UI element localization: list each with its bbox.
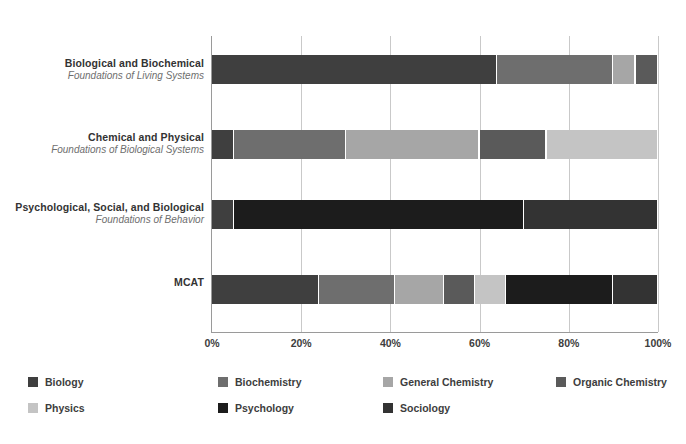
x-tick-label: 20% (291, 337, 312, 349)
legend-swatch-icon (218, 377, 228, 387)
bar-segment[interactable] (497, 55, 612, 84)
stacked-bar[interactable] (212, 200, 658, 229)
legend-row: BiologyBiochemistryGeneral ChemistryOrga… (28, 376, 668, 402)
category-label: Chemical and PhysicalFoundations of Biol… (8, 131, 204, 155)
bar-segment[interactable] (212, 55, 496, 84)
legend-swatch-icon (556, 377, 566, 387)
legend-label: Physics (45, 402, 85, 414)
x-axis-line (211, 332, 658, 333)
legend-label: Sociology (400, 402, 450, 414)
category-label-title: Chemical and Physical (8, 131, 204, 143)
legend-swatch-icon (28, 377, 38, 387)
bar-segment[interactable] (346, 130, 479, 159)
chart-legend: BiologyBiochemistryGeneral ChemistryOrga… (28, 376, 668, 428)
legend-item[interactable]: Biology (28, 376, 84, 388)
legend-label: General Chemistry (400, 376, 493, 388)
legend-swatch-icon (28, 403, 38, 413)
legend-swatch-icon (218, 403, 228, 413)
stacked-bar[interactable] (212, 55, 658, 84)
legend-swatch-icon (383, 377, 393, 387)
legend-item[interactable]: Physics (28, 402, 85, 414)
category-label-title: MCAT (8, 276, 204, 288)
x-tick-label: 40% (380, 337, 401, 349)
bar-segment[interactable] (475, 275, 505, 304)
category-label: Biological and BiochemicalFoundations of… (8, 57, 204, 81)
stacked-bar[interactable] (212, 275, 658, 304)
category-label-title: Biological and Biochemical (8, 57, 204, 69)
bar-segment[interactable] (636, 55, 657, 84)
category-label-subtitle: Foundations of Biological Systems (8, 144, 204, 155)
legend-label: Organic Chemistry (573, 376, 667, 388)
bar-segment[interactable] (506, 275, 612, 304)
legend-row: PhysicsPsychologySociology (28, 402, 668, 428)
bar-segment[interactable] (234, 200, 523, 229)
bar-segment[interactable] (212, 130, 233, 159)
bar-segment[interactable] (212, 275, 318, 304)
bar-segment[interactable] (524, 200, 657, 229)
category-label-subtitle: Foundations of Living Systems (8, 70, 204, 81)
bar-segment[interactable] (234, 130, 344, 159)
legend-item[interactable]: Psychology (218, 402, 294, 414)
category-label: MCAT (8, 276, 204, 288)
stacked-bar[interactable] (212, 130, 658, 159)
bar-segment[interactable] (480, 130, 546, 159)
category-label: Psychological, Social, and BiologicalFou… (8, 201, 204, 225)
category-label-title: Psychological, Social, and Biological (8, 201, 204, 213)
legend-item[interactable]: Biochemistry (218, 376, 302, 388)
legend-item[interactable]: General Chemistry (383, 376, 493, 388)
legend-label: Biochemistry (235, 376, 302, 388)
category-label-subtitle: Foundations of Behavior (8, 214, 204, 225)
x-tick-label: 100% (645, 337, 672, 349)
x-tick-label: 80% (558, 337, 579, 349)
x-tick-label: 60% (469, 337, 490, 349)
bar-segment[interactable] (444, 275, 474, 304)
bar-segment[interactable] (319, 275, 394, 304)
legend-item[interactable]: Organic Chemistry (556, 376, 667, 388)
bar-segment[interactable] (613, 55, 634, 84)
legend-label: Psychology (235, 402, 294, 414)
bar-segment[interactable] (547, 130, 657, 159)
legend-swatch-icon (383, 403, 393, 413)
legend-label: Biology (45, 376, 84, 388)
stacked-bar-chart: Biological and BiochemicalFoundations of… (0, 0, 686, 444)
bar-segment[interactable] (395, 275, 443, 304)
x-tick-label: 0% (204, 337, 219, 349)
gridline (658, 36, 659, 332)
legend-item[interactable]: Sociology (383, 402, 450, 414)
bar-segment[interactable] (613, 275, 656, 304)
bar-segment[interactable] (212, 200, 233, 229)
